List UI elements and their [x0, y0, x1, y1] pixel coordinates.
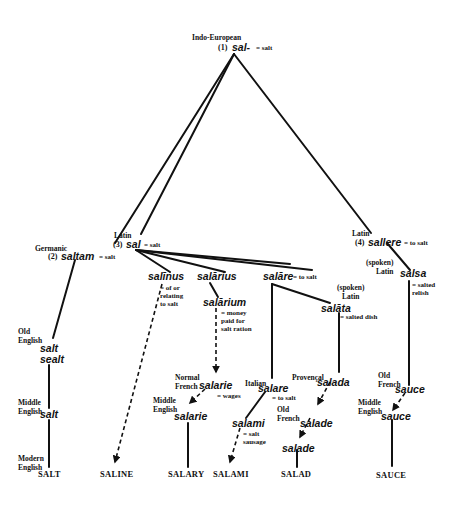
final-word-salad: SALAD [281, 470, 311, 479]
salarius-word: salārius [197, 271, 237, 282]
old-french-salade-word: salade [300, 418, 333, 429]
salarium-gloss: = money paid for salt ration [221, 309, 252, 333]
final-word-saline: SALINE [100, 470, 133, 479]
salata-word: salāta [321, 303, 351, 314]
salare-word: salāre [263, 271, 293, 282]
final-word-salary: SALARY [168, 470, 204, 479]
middle-english-sauce-stage-label: Middle English [358, 399, 382, 416]
italian-gloss: = to salt [272, 395, 296, 402]
norman-french-gloss: = wages [217, 393, 241, 400]
salami-word: salami [232, 418, 265, 429]
salare-gloss: = to salt [293, 274, 317, 281]
italian-word: salare [258, 383, 288, 394]
middle-english-sauce-word: sauce [381, 411, 411, 422]
root-number: (1) [218, 44, 227, 52]
salata-stage-label: (spoken) Latin [337, 284, 365, 301]
germanic-word: saltam [61, 251, 94, 262]
latin-number: (3) [113, 241, 122, 249]
old-french-salade-stage-label: Old French [277, 406, 300, 423]
old-french-sauce-word: sauce [395, 384, 425, 395]
provencal-word: salada [317, 377, 350, 388]
root-gloss: = salt [256, 45, 272, 52]
salsa-word: salsa [400, 268, 426, 279]
salami-gloss: = salt sausage [243, 430, 266, 446]
middle-english-salt-word: salt [40, 409, 58, 420]
latin4-gloss: = to salt [404, 240, 428, 247]
middle-english-salarie-word: salarie [174, 411, 207, 422]
salinus-word: salīnus [148, 271, 184, 282]
old-english-word-salt: salt [40, 343, 58, 354]
latin4-word: sallere [368, 237, 401, 248]
salade-word: salade [282, 443, 315, 454]
latin-gloss: = salt [144, 242, 160, 249]
salsa-stage-label: (spoken) Latin [366, 259, 394, 276]
final-word-salami: SALAMI [213, 470, 249, 479]
root-word: sal- [232, 42, 250, 53]
germanic-gloss: = salt [99, 254, 115, 261]
germanic-number: (2) [48, 253, 57, 261]
old-english-word-sealt: sealt [40, 354, 64, 365]
salinus-gloss: = of or relating to salt [160, 284, 183, 308]
salsa-gloss: = salted relish [412, 281, 435, 297]
latin4-stage-label: Latin [352, 230, 370, 238]
old-english-stage-label: Old English [18, 328, 42, 345]
norman-french-word: salarie [199, 380, 232, 391]
latin-word: sal [126, 239, 141, 250]
final-word-salt: SALT [38, 470, 61, 479]
middle-english-salt-stage-label: Middle English [18, 399, 42, 416]
latin4-number: (4) [355, 239, 364, 247]
salata-gloss: = salted dish [340, 314, 377, 321]
final-word-sauce: SAUCE [376, 471, 406, 480]
norman-french-stage-label: Normal French [175, 374, 200, 391]
salarium-word: salārium [203, 297, 246, 308]
